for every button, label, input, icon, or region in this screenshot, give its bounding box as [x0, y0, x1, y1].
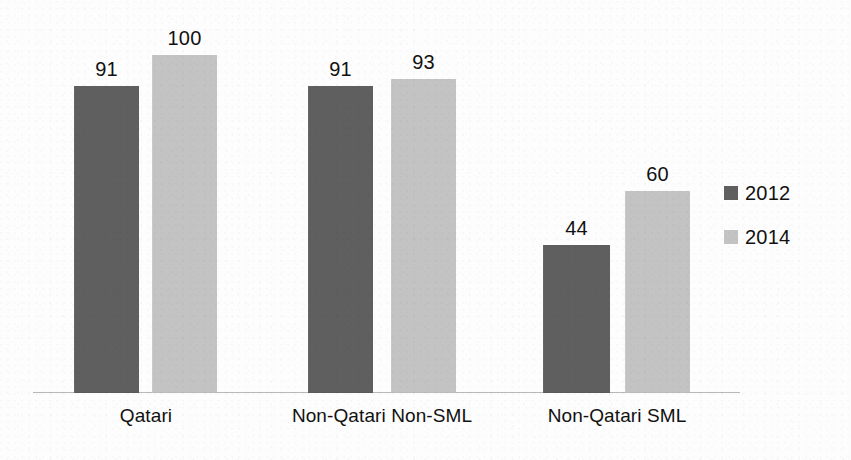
- chart-legend: 2012 2014: [724, 178, 834, 266]
- bar-non-qatari-sml-2014: [625, 191, 690, 393]
- x-axis-label-non-qatari-sml: Non-Qatari SML: [517, 404, 717, 428]
- bar-chart: 91 100 Qatari 91 93 Non-Qatari Non-SML 4…: [0, 0, 851, 460]
- bar-non-qatari-non-sml-2014: [391, 79, 456, 393]
- value-label-non-qatari-sml-2014: 60: [625, 164, 690, 184]
- value-label-qatari-2012: 91: [74, 59, 139, 79]
- legend-label-2012: 2012: [745, 183, 790, 203]
- legend-swatch-2014-icon: [724, 230, 738, 244]
- bar-non-qatari-non-sml-2012: [308, 86, 373, 393]
- bar-non-qatari-sml-2012: [543, 245, 610, 393]
- value-label-non-qatari-non-sml-2014: 93: [391, 52, 456, 72]
- bar-qatari-2014: [152, 55, 217, 393]
- value-label-non-qatari-non-sml-2012: 91: [308, 59, 373, 79]
- value-label-non-qatari-sml-2012: 44: [543, 218, 610, 238]
- x-axis-label-qatari: Qatari: [46, 404, 246, 428]
- value-label-qatari-2014: 100: [152, 28, 217, 48]
- x-axis-label-non-qatari-non-sml: Non-Qatari Non-SML: [282, 404, 482, 428]
- legend-swatch-2012-icon: [724, 186, 738, 200]
- bar-qatari-2012: [74, 86, 139, 393]
- legend-item-2012[interactable]: 2012: [724, 178, 834, 208]
- legend-item-2014[interactable]: 2014: [724, 222, 834, 252]
- legend-label-2014: 2014: [745, 227, 790, 247]
